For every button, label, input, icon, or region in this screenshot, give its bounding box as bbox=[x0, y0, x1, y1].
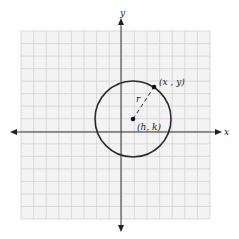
radius-label: r bbox=[136, 94, 141, 104]
center-point-label: (h, k) bbox=[137, 122, 161, 132]
x-axis-label: x bbox=[224, 127, 229, 137]
center-point bbox=[131, 117, 136, 122]
circle-diagram: x y r (h, k) (x , y) bbox=[0, 0, 239, 239]
y-axis-top-arrow-icon bbox=[118, 18, 124, 25]
grid-background bbox=[21, 31, 210, 219]
edge-point bbox=[152, 85, 157, 90]
x-axis-left-arrow-icon bbox=[10, 129, 17, 135]
x-axis-right-arrow-icon bbox=[215, 129, 222, 135]
y-axis-label: y bbox=[119, 8, 126, 18]
edge-point-label: (x , y) bbox=[159, 77, 185, 87]
y-axis-bottom-arrow-icon bbox=[118, 225, 124, 232]
